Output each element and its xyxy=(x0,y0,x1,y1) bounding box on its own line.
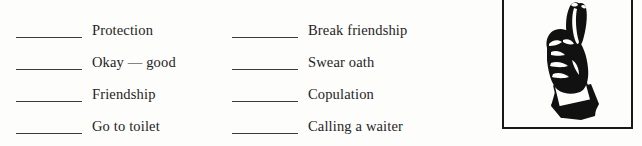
list-item[interactable]: Okay — good xyxy=(0,46,176,78)
list-item[interactable]: Break friendship xyxy=(215,14,407,46)
answer-label: Swear oath xyxy=(308,54,374,71)
answer-label: Copulation xyxy=(308,86,374,103)
illustration-frame xyxy=(502,0,633,129)
right-column: Break friendship Swear oath Copulation C… xyxy=(215,0,470,146)
answer-label: Go to toilet xyxy=(92,118,160,135)
answer-blank-input[interactable] xyxy=(232,133,298,134)
answer-blank-input[interactable] xyxy=(16,69,82,70)
answer-blank-input[interactable] xyxy=(232,37,298,38)
answer-label: Friendship xyxy=(92,86,156,103)
answer-label: Calling a waiter xyxy=(308,118,403,135)
list-item[interactable]: Calling a waiter xyxy=(215,110,403,142)
list-item[interactable]: Swear oath xyxy=(215,46,374,78)
list-item[interactable]: Copulation xyxy=(215,78,374,110)
left-column: Protection Okay — good Friendship Go to … xyxy=(0,0,215,146)
answer-blank-input[interactable] xyxy=(232,69,298,70)
answer-blank-input[interactable] xyxy=(16,133,82,134)
answer-label: Break friendship xyxy=(308,22,407,39)
answer-blank-input[interactable] xyxy=(16,101,82,102)
crossed-fingers-hand-icon xyxy=(504,0,631,127)
answer-label: Okay — good xyxy=(92,54,176,71)
answer-blank-input[interactable] xyxy=(16,37,82,38)
answer-label: Protection xyxy=(92,22,153,39)
answer-blank-input[interactable] xyxy=(232,101,298,102)
list-item[interactable]: Friendship xyxy=(0,78,156,110)
exercise-page: Protection Okay — good Friendship Go to … xyxy=(0,0,642,146)
list-item[interactable]: Protection xyxy=(0,14,153,46)
list-item[interactable]: Go to toilet xyxy=(0,110,160,142)
